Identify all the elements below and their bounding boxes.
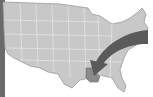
us-map — [0, 0, 153, 97]
